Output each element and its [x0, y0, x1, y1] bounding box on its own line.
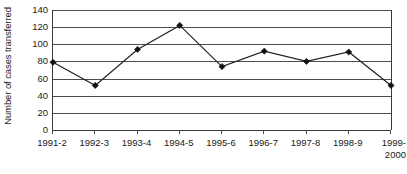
y-tick-label: 140	[16, 5, 48, 15]
x-tick	[137, 130, 138, 134]
x-tick	[306, 130, 307, 134]
y-tick-label: 20	[16, 108, 48, 118]
line-chart: Number of cases transferred 020406080100…	[0, 0, 407, 174]
x-tick	[263, 130, 264, 134]
x-axis-ticks	[52, 130, 390, 135]
x-axis-label: 1999- 2000	[362, 137, 406, 161]
y-tick-label: 100	[16, 39, 48, 49]
y-tick-label: 60	[16, 74, 48, 84]
x-tick	[179, 130, 180, 134]
data-point-marker	[303, 58, 309, 64]
x-tick	[348, 130, 349, 134]
y-tick-label: 120	[16, 22, 48, 32]
x-tick	[94, 130, 95, 134]
x-tick	[390, 130, 391, 134]
data-series-line	[53, 10, 391, 130]
x-tick	[52, 130, 53, 134]
y-axis-title: Number of cases transferred	[0, 0, 16, 132]
y-tick-label: 40	[16, 91, 48, 101]
y-tick-label: 0	[16, 125, 48, 135]
data-point-marker	[50, 59, 56, 65]
plot-area	[52, 10, 392, 130]
x-axis-tick-labels: 1991-21992-31993-41994-51995-61996-71997…	[0, 137, 407, 174]
series-line	[53, 25, 391, 85]
x-tick	[221, 130, 222, 134]
y-tick-label: 80	[16, 56, 48, 66]
data-point-marker	[261, 48, 267, 54]
